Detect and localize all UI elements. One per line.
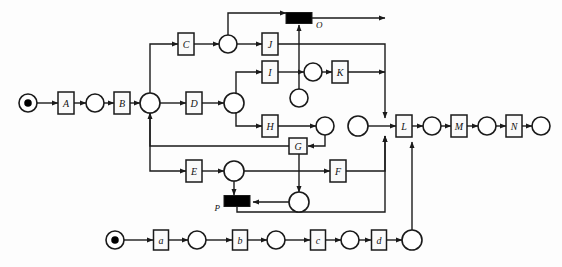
- transition-label-M: M: [454, 121, 464, 132]
- place-p_start_top[interactable]: [19, 94, 37, 112]
- place-p_H_out[interactable]: [316, 117, 334, 135]
- transition-J[interactable]: J: [262, 33, 278, 55]
- transition-label-N: N: [510, 121, 519, 132]
- transition-label-G: G: [294, 141, 301, 152]
- node-layer: ABCDEFGHIJKLMNOPabcd: [19, 13, 550, 251]
- transition-L[interactable]: L: [396, 115, 412, 137]
- place-p_c_d[interactable]: [341, 231, 359, 249]
- place-p_L_M[interactable]: [423, 117, 441, 135]
- transition-label-L: L: [400, 121, 407, 132]
- place-p_b_c[interactable]: [267, 231, 285, 249]
- petri-net-canvas: ABCDEFGHIJKLMNOPabcd: [0, 0, 562, 267]
- transition-O[interactable]: O: [286, 13, 323, 30]
- transition-label-P: P: [214, 203, 221, 213]
- transition-F[interactable]: F: [330, 160, 346, 182]
- transition-P[interactable]: P: [214, 196, 251, 213]
- place-p_M_N[interactable]: [478, 117, 496, 135]
- transition-label-I: I: [267, 67, 272, 78]
- transition-label-O: O: [316, 20, 323, 30]
- transition-K[interactable]: K: [332, 61, 348, 83]
- token-dot: [24, 99, 32, 107]
- arc-p_H_out-to-G: [308, 135, 325, 146]
- place-p_merge_L[interactable]: [348, 116, 368, 136]
- transition-M[interactable]: M: [451, 115, 467, 137]
- transition-I[interactable]: I: [262, 61, 278, 83]
- transition-C[interactable]: C: [178, 33, 194, 55]
- place-p_D_fork[interactable]: [224, 93, 244, 113]
- token-dot: [111, 236, 119, 244]
- arc-P-to-p_merge_L: [237, 136, 385, 212]
- place-p_C_J[interactable]: [219, 35, 237, 53]
- place-p_N_end[interactable]: [532, 117, 550, 135]
- arc-p_join_B-to-C: [150, 44, 178, 93]
- place-p_mid_O[interactable]: [290, 89, 308, 107]
- place-p_a_b[interactable]: [188, 231, 206, 249]
- transition-D[interactable]: D: [186, 92, 202, 114]
- transition-label-H: H: [265, 121, 274, 132]
- transition-label-K: K: [336, 67, 345, 78]
- transition-G[interactable]: G: [289, 138, 307, 154]
- transition-label-A: A: [62, 98, 70, 109]
- transition-H[interactable]: H: [262, 115, 278, 137]
- petri-net-diagram: ABCDEFGHIJKLMNOPabcd: [0, 0, 562, 267]
- transition-c[interactable]: c: [311, 230, 326, 250]
- transition-label-b: b: [238, 235, 243, 246]
- transition-E[interactable]: E: [186, 160, 202, 182]
- place-p_G_out[interactable]: [289, 192, 309, 212]
- arc-p_D_fork-to-I: [236, 72, 262, 95]
- place-p_I_K[interactable]: [304, 63, 322, 81]
- transition-d[interactable]: d: [372, 230, 387, 250]
- transition-label-J: J: [268, 39, 273, 50]
- transition-label-E: E: [190, 166, 197, 177]
- transition-label-c: c: [316, 235, 321, 246]
- place-p_E_out[interactable]: [224, 161, 244, 181]
- arc-p_C_J-to-O: [228, 13, 286, 35]
- transition-label-C: C: [183, 39, 190, 50]
- transition-label-D: D: [189, 98, 198, 109]
- transition-label-a: a: [159, 235, 164, 246]
- arc-F-to-p_merge_L: [346, 136, 385, 171]
- transition-label-F: F: [334, 166, 342, 177]
- arc-p_D_fork-to-H: [236, 112, 262, 126]
- place-p_A_B[interactable]: [86, 94, 104, 112]
- transition-label-B: B: [119, 98, 125, 109]
- place-p_join_B[interactable]: [140, 93, 160, 113]
- transition-b[interactable]: b: [233, 230, 248, 250]
- transition-A[interactable]: A: [58, 92, 74, 114]
- place-p_start_bot[interactable]: [106, 231, 124, 249]
- transition-B[interactable]: B: [114, 92, 130, 114]
- arc-p_join_B-to-E: [150, 113, 186, 171]
- place-p_d_out[interactable]: [402, 230, 422, 250]
- transition-N[interactable]: N: [506, 115, 522, 137]
- transition-a[interactable]: a: [154, 230, 169, 250]
